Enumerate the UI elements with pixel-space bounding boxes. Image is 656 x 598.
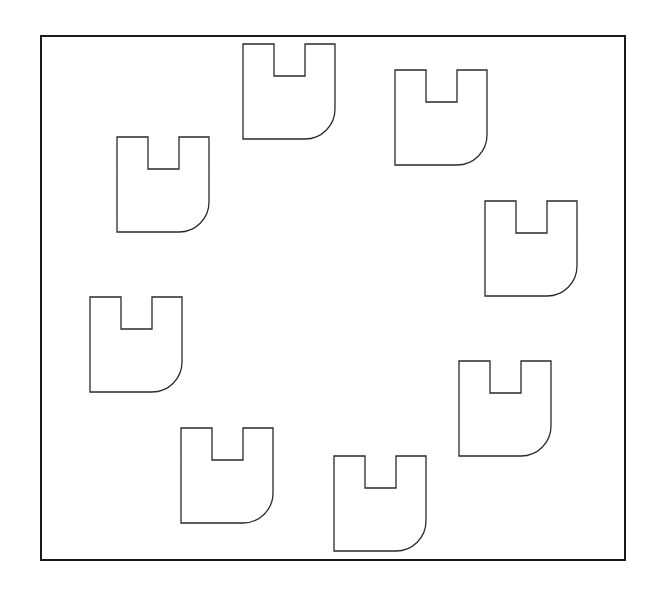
u-shape-1 (243, 44, 335, 139)
u-shape-5 (334, 456, 426, 551)
u-shape-4 (459, 361, 551, 456)
u-shape-6 (181, 428, 273, 523)
u-shape-7 (90, 297, 182, 392)
diagram-canvas (0, 0, 656, 598)
u-shape-group (90, 44, 577, 551)
u-shape-3 (485, 201, 577, 296)
u-shape-8 (117, 137, 209, 232)
u-shape-2 (395, 70, 487, 165)
